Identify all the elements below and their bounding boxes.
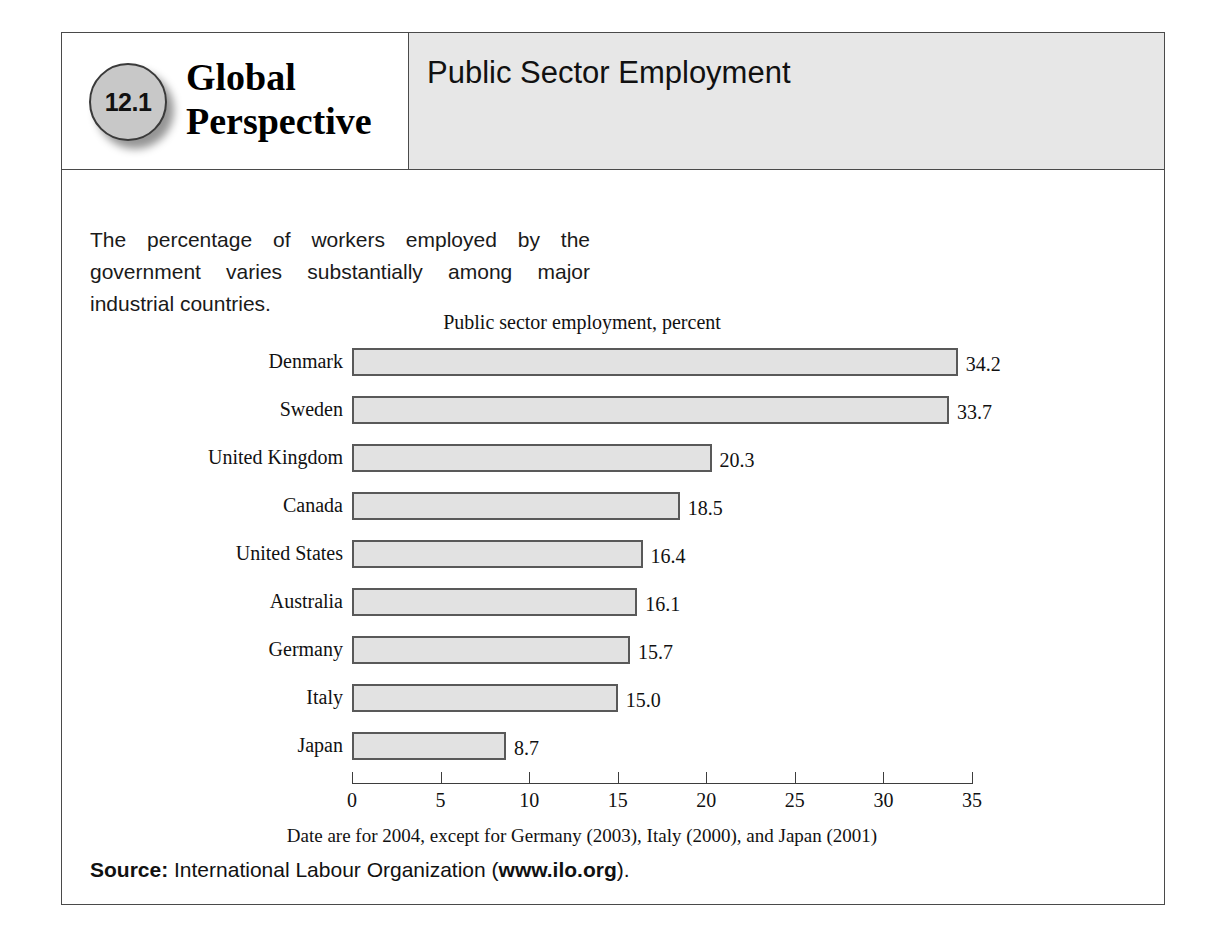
bar-category-label: Sweden xyxy=(280,398,343,421)
figure-body: The percentage of workers employed by th… xyxy=(62,171,1164,904)
x-axis-line xyxy=(352,783,972,784)
x-axis-tick-label: 30 xyxy=(873,789,893,812)
bar-row: Japan8.7 xyxy=(62,723,1164,771)
page-title: Public Sector Employment xyxy=(427,55,791,91)
x-axis-tick xyxy=(883,772,884,784)
chart-plot-area: Denmark34.2Sweden33.7United Kingdom20.3C… xyxy=(62,339,1164,855)
x-axis-tick-label: 10 xyxy=(519,789,539,812)
bar-value-label: 15.7 xyxy=(638,641,673,664)
x-axis-tick xyxy=(795,772,796,784)
series-title: Global Perspective xyxy=(186,55,372,143)
intro-paragraph: The percentage of workers employed by th… xyxy=(90,224,590,320)
bar-value-label: 33.7 xyxy=(957,401,992,424)
chart-footnote: Date are for 2004, except for Germany (2… xyxy=(62,825,1102,847)
source-text: International Labour Organization ( xyxy=(168,858,498,881)
x-axis-tick xyxy=(972,772,973,784)
bar-row: Germany15.7 xyxy=(62,627,1164,675)
bar-row: United Kingdom20.3 xyxy=(62,435,1164,483)
bar-row: United States16.4 xyxy=(62,531,1164,579)
bar-value-label: 15.0 xyxy=(626,689,661,712)
bar[interactable] xyxy=(352,492,680,520)
bar-row: Canada18.5 xyxy=(62,483,1164,531)
x-axis-tick xyxy=(352,772,353,784)
series-title-line2: Perspective xyxy=(186,99,372,143)
bar-value-label: 20.3 xyxy=(720,449,755,472)
bar-category-label: Canada xyxy=(283,494,343,517)
x-axis-tick-label: 25 xyxy=(785,789,805,812)
x-axis-tick-label: 5 xyxy=(436,789,446,812)
source-tail: ). xyxy=(617,858,630,881)
bar-value-label: 16.1 xyxy=(645,593,680,616)
bar[interactable] xyxy=(352,444,712,472)
bar-row: Sweden33.7 xyxy=(62,387,1164,435)
x-axis-tick xyxy=(618,772,619,784)
x-axis-tick xyxy=(529,772,530,784)
bar-category-label: United States xyxy=(236,542,343,565)
series-title-line1: Global xyxy=(186,55,372,99)
bar-category-label: Japan xyxy=(297,734,343,757)
source-link[interactable]: www.ilo.org xyxy=(499,858,617,881)
bar-value-label: 34.2 xyxy=(966,353,1001,376)
bar-value-label: 16.4 xyxy=(651,545,686,568)
bar-category-label: Italy xyxy=(306,686,343,709)
bar[interactable] xyxy=(352,396,949,424)
header-title-panel: Public Sector Employment xyxy=(409,33,1164,169)
x-axis-tick-label: 0 xyxy=(347,789,357,812)
figure-header: 12.1 Global Perspective Public Sector Em… xyxy=(62,33,1164,170)
bar[interactable] xyxy=(352,588,637,616)
bar-value-label: 18.5 xyxy=(688,497,723,520)
x-axis-tick xyxy=(441,772,442,784)
bar-row: Denmark34.2 xyxy=(62,339,1164,387)
x-axis-tick-label: 35 xyxy=(962,789,982,812)
bar-row: Australia16.1 xyxy=(62,579,1164,627)
bar[interactable] xyxy=(352,540,643,568)
bar[interactable] xyxy=(352,636,630,664)
x-axis: 05101520253035 xyxy=(62,771,1164,817)
bar[interactable] xyxy=(352,684,618,712)
chart-title: Public sector employment, percent xyxy=(62,311,1102,334)
source-line: Source: International Labour Organizatio… xyxy=(90,858,630,882)
bar-category-label: Germany xyxy=(269,638,343,661)
bar[interactable] xyxy=(352,348,958,376)
x-axis-tick-label: 20 xyxy=(696,789,716,812)
bar-value-label: 8.7 xyxy=(514,737,539,760)
bar-category-label: United Kingdom xyxy=(208,446,343,469)
figure-number-badge: 12.1 xyxy=(89,63,167,141)
bar-category-label: Australia xyxy=(270,590,343,613)
source-label: Source: xyxy=(90,858,168,881)
x-axis-tick xyxy=(706,772,707,784)
bar[interactable] xyxy=(352,732,506,760)
figure-number-label: 12.1 xyxy=(105,88,152,117)
figure-box: 12.1 Global Perspective Public Sector Em… xyxy=(61,32,1165,905)
bar-category-label: Denmark xyxy=(269,350,343,373)
bar-row: Italy15.0 xyxy=(62,675,1164,723)
x-axis-tick-label: 15 xyxy=(608,789,628,812)
header-badge-panel: 12.1 Global Perspective xyxy=(62,33,409,169)
